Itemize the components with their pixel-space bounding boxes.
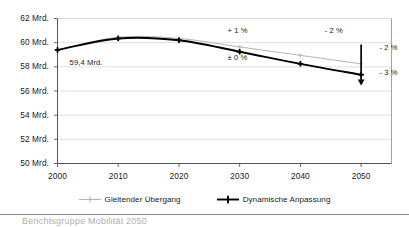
legend-item-dynamische-anpassung: Dynamische Anpassung: [217, 195, 331, 204]
legend-marker-gleitender-uebergang: [79, 195, 101, 204]
y-tick-label-60: 60 Mrd.: [0, 37, 49, 47]
annotation-1-1: + 1 %: [228, 26, 248, 35]
x-tick-label-2040: 2040: [280, 171, 320, 181]
legend-label-gleitender-uebergang: Gleitender Übergang: [105, 195, 181, 204]
annotation-2-4: - 2 %: [379, 43, 397, 52]
y-tick-label-50: 50 Mrd.: [0, 158, 49, 168]
annotation-59-4-mrd-0: 59,4 Mrd.: [70, 58, 103, 67]
footer-divider: [0, 214, 409, 215]
x-tick-label-2020: 2020: [159, 171, 199, 181]
datapoint-dynamische-2000: [55, 47, 61, 53]
gridlines-group: [58, 19, 392, 140]
down-arrow-annotation: [358, 44, 365, 85]
chart-legend: Gleitender Übergang Dynamische Anpassung: [0, 192, 409, 206]
annotation-0-2: ± 0 %: [228, 53, 248, 62]
x-tick-label-2030: 2030: [220, 171, 260, 181]
series-line-dynamische-anpassung: [58, 38, 362, 75]
annotation-2-3: - 2 %: [325, 26, 343, 35]
y-tick-label-52: 52 Mrd.: [0, 134, 49, 144]
annotation-3-5: - 3 %: [379, 68, 397, 77]
datapoint-gleitender-2030: [237, 45, 241, 49]
datapoint-dynamische-2040: [298, 61, 304, 67]
series-lines-group: [58, 36, 362, 74]
y-tick-label-54: 54 Mrd.: [0, 110, 49, 120]
legend-marker-dynamische-anpassung: [217, 195, 239, 204]
footer-text: Berichtsgruppe Mobilität 2050: [22, 216, 147, 227]
y-tick-label-56: 56 Mrd.: [0, 86, 49, 96]
x-tick-label-2000: 2000: [38, 171, 78, 181]
x-tick-label-2050: 2050: [341, 171, 381, 181]
arrow-head: [358, 80, 365, 86]
datapoint-gleitender-2040: [298, 53, 302, 57]
y-tick-label-58: 58 Mrd.: [0, 61, 49, 71]
legend-item-gleitender-uebergang: Gleitender Übergang: [79, 195, 181, 204]
chart-container: 50 Mrd.52 Mrd.54 Mrd.56 Mrd.58 Mrd.60 Mr…: [0, 0, 409, 227]
legend-label-dynamische-anpassung: Dynamische Anpassung: [243, 195, 331, 204]
datapoint-dynamische-2010: [115, 36, 121, 42]
x-tick-label-2010: 2010: [98, 171, 138, 181]
y-tick-label-62: 62 Mrd.: [0, 13, 49, 23]
